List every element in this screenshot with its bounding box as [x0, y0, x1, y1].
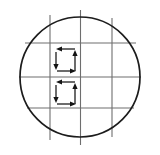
diagram-canvas — [0, 0, 160, 155]
figure-root — [0, 0, 160, 155]
